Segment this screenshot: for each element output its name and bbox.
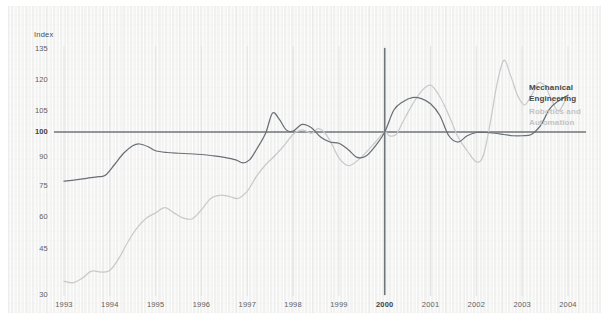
x-tick-1995: 1995 [136,300,176,309]
y-tick-135: 135 [22,44,48,53]
x-tick-2004: 2004 [548,300,588,309]
y-tick-105: 105 [22,106,48,115]
legend-robotics-line2: Automation [529,118,581,129]
legend-mechanical-line1: Mechanical [529,83,576,94]
x-tick-1998: 1998 [273,300,313,309]
legend-robotics-line1: Robotics and [529,107,581,118]
x-tick-1996: 1996 [181,300,221,309]
x-tick-1994: 1994 [90,300,130,309]
legend-mechanical-line2: Engineering [529,94,576,105]
x-tick-2000: 2000 [365,300,405,309]
y-tick-60: 60 [22,212,48,221]
line-chart-plot [8,6,601,313]
x-tick-1999: 1999 [319,300,359,309]
x-tick-1993: 1993 [44,300,84,309]
chart-panel: Index 1351201051009075604530 19931994199… [8,6,601,313]
y-tick-45: 45 [22,244,48,253]
y-tick-75: 75 [22,181,48,190]
y-tick-100: 100 [22,127,48,136]
x-tick-2002: 2002 [456,300,496,309]
y-tick-120: 120 [22,75,48,84]
series-lines [64,60,568,283]
x-tick-1997: 1997 [227,300,267,309]
legend-mechanical-engineering: Mechanical Engineering [529,83,576,104]
series-line-robotics-and-automation [64,60,568,283]
y-tick-30: 30 [22,290,48,299]
legend-robotics-automation: Robotics and Automation [529,107,581,128]
x-tick-2003: 2003 [502,300,542,309]
x-tick-2001: 2001 [411,300,451,309]
y-axis-title: Index [34,30,53,39]
gridlines [64,46,568,296]
y-tick-90: 90 [22,152,48,161]
